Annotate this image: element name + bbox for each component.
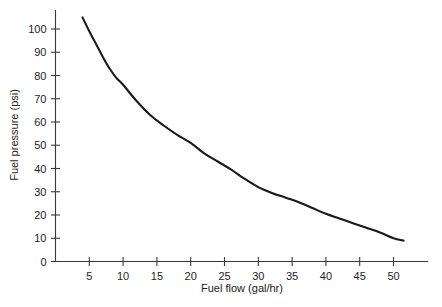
y-axis-tick-label: 50 [34,139,46,151]
x-axis-tick-labels: 5101520253035404550 [86,270,399,282]
y-axis-tick-label: 20 [34,209,46,221]
y-axis-tick-label: 40 [34,163,46,175]
y-axis-tick-label: 10 [34,232,46,244]
x-axis-tick-label: 40 [320,270,332,282]
y-axis-tick-label: 80 [34,70,46,82]
x-axis-tick-label: 30 [252,270,264,282]
x-axis-tick-label: 25 [218,270,230,282]
chart-container: 0102030405060708090100 Fuel pressure (ps… [0,0,442,307]
y-axis-tick-label: 70 [34,93,46,105]
x-axis-title: Fuel flow (gal/hr) [201,282,283,294]
x-axis-tick-label: 35 [286,270,298,282]
y-axis-tick-label: 90 [34,46,46,58]
x-axis-tick-label: 15 [151,270,163,282]
x-axis-tick-label: 5 [86,270,92,282]
x-axis-tick-label: 20 [185,270,197,282]
x-axis: 5101520253035404550 Fuel flow (gal/hr) [56,257,429,294]
data-curve [83,17,404,240]
y-axis-title: Fuel pressure (psi) [8,89,20,181]
x-axis-tick-label: 45 [354,270,366,282]
y-axis-tick-label: 60 [34,116,46,128]
y-axis-tick-label: 100 [28,23,46,35]
y-axis-tick-label: 30 [34,186,46,198]
data-series-group [83,17,404,240]
x-axis-tick-label: 10 [117,270,129,282]
fuel-pressure-vs-fuel-flow-chart: 0102030405060708090100 Fuel pressure (ps… [0,0,442,307]
y-axis-tick-labels: 0102030405060708090100 [28,23,46,268]
y-axis: 0102030405060708090100 Fuel pressure (ps… [8,10,60,268]
y-axis-tick-label: 0 [40,256,46,268]
x-axis-tick-label: 50 [387,270,399,282]
